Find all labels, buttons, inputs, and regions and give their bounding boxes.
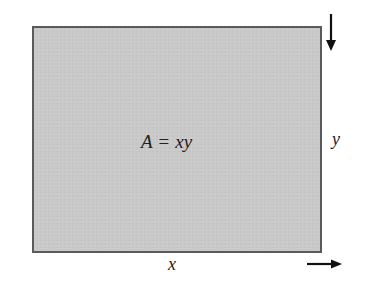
right-arrow-icon xyxy=(307,260,342,269)
down-arrow-icon xyxy=(326,14,336,51)
arrows-layer xyxy=(0,0,370,283)
